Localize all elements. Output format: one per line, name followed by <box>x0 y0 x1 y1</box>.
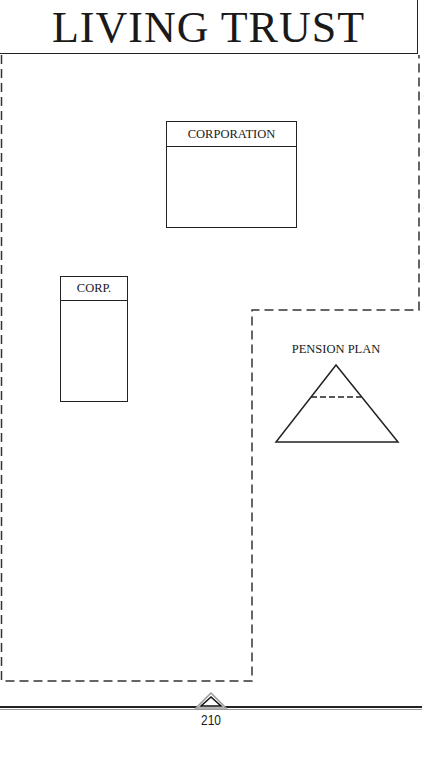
corporation-label: CORPORATION <box>167 122 296 147</box>
pension-plan-triangle <box>276 365 398 442</box>
corporation-box: CORPORATION <box>166 121 297 228</box>
corp-label: CORP. <box>61 277 127 301</box>
page-number: 210 <box>200 712 222 728</box>
pension-plan-label: PENSION PLAN <box>286 342 386 357</box>
corp-box: CORP. <box>60 276 128 402</box>
